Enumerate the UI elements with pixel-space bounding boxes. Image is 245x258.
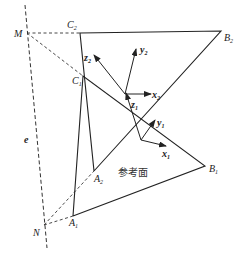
axis-line-e	[25, 5, 47, 248]
triangle-2	[80, 31, 221, 171]
label-y2: y2	[139, 44, 147, 56]
dashed-M-C1	[27, 33, 83, 76]
geometry-diagram: M N C2 C1 B2 B1 A2 A1 e x2 y2 z2 x1 y1 z…	[0, 0, 245, 258]
diagram-canvas: M N C2 C1 B2 B1 A2 A1 e x2 y2 z2 x1 y1 z…	[0, 0, 245, 258]
label-C1: C1	[72, 75, 82, 87]
label-B2: B2	[224, 32, 233, 44]
y1-axis-arrow	[141, 120, 155, 140]
label-z1: z1	[130, 99, 138, 111]
label-e: e	[24, 134, 29, 145]
label-x2: x2	[151, 89, 160, 101]
label-M: M	[13, 28, 23, 39]
label-z2: z2	[83, 52, 91, 64]
label-A2: A2	[93, 173, 103, 185]
label-N: N	[32, 227, 41, 238]
y2-axis-arrow	[125, 49, 136, 94]
reference-plane-label: 参考面	[118, 166, 148, 178]
label-x1: x1	[161, 148, 170, 160]
label-C2: C2	[67, 19, 77, 31]
x1-axis-arrow	[141, 140, 166, 146]
triangle-1	[73, 76, 205, 216]
label-y1: y1	[156, 117, 164, 129]
label-A1: A1	[68, 217, 78, 229]
label-B1: B1	[209, 163, 218, 175]
